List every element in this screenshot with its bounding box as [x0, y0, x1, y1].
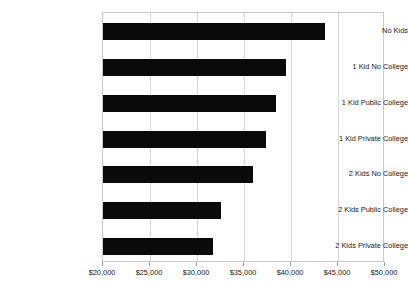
category-label: 2 Kids No College — [310, 169, 408, 178]
x-tick-mark — [384, 262, 385, 266]
bar[interactable] — [103, 238, 213, 255]
bar[interactable] — [103, 166, 253, 183]
x-tick-label: $45,000 — [324, 268, 351, 277]
bar[interactable] — [103, 95, 276, 112]
x-tick-label: $50,000 — [371, 268, 398, 277]
x-tick-mark — [337, 262, 338, 266]
category-label: 2 Kids Private College — [310, 241, 408, 250]
category-label: 1 Kid Public College — [310, 98, 408, 107]
bar[interactable] — [103, 202, 221, 219]
x-tick-label: $25,000 — [136, 268, 163, 277]
category-label: 2 Kids Public College — [310, 205, 408, 214]
bar-chart: No Kids1 Kid No College1 Kid Public Coll… — [0, 0, 408, 295]
x-tick-label: $20,000 — [89, 268, 116, 277]
x-tick-mark — [102, 262, 103, 266]
category-label: 1 Kid Private College — [310, 134, 408, 143]
category-label: 1 Kid No College — [310, 62, 408, 71]
x-tick-label: $30,000 — [183, 268, 210, 277]
category-label: No Kids — [310, 26, 408, 35]
x-tick-mark — [196, 262, 197, 266]
bar[interactable] — [103, 23, 325, 40]
x-tick-mark — [149, 262, 150, 266]
bar[interactable] — [103, 131, 266, 148]
x-tick-label: $35,000 — [230, 268, 257, 277]
x-tick-mark — [290, 262, 291, 266]
x-tick-label: $40,000 — [277, 268, 304, 277]
bar[interactable] — [103, 59, 286, 76]
x-tick-mark — [243, 262, 244, 266]
